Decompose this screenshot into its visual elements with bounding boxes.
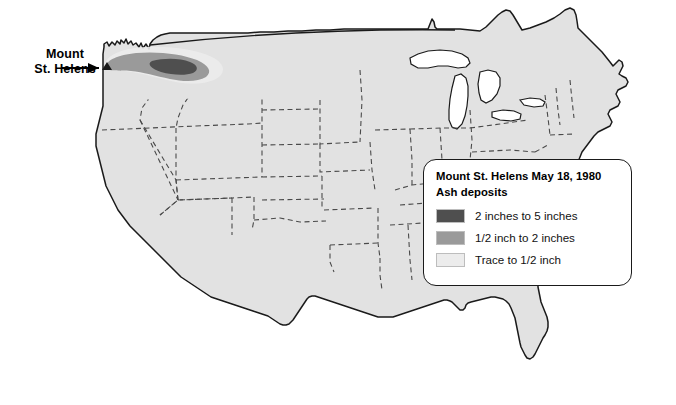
- legend-title-line-1: Mount St. Helens May 18, 1980: [436, 169, 631, 185]
- legend-label-2-to-5-inches: 2 inches to 5 inches: [475, 209, 577, 223]
- legend-title: Mount St. Helens May 18, 1980 Ash deposi…: [436, 169, 631, 200]
- mount-st-helens-label: Mount St. Helens: [22, 47, 108, 77]
- ash-deposit-map-figure: Mount St. Helens Mount St. Helens May 18…: [0, 0, 676, 405]
- legend-label-trace-to-half-inch: Trace to 1/2 inch: [475, 253, 561, 267]
- callout-line-1: Mount: [22, 47, 108, 62]
- callout-line-2: St. Helens: [22, 62, 108, 77]
- legend-item: Trace to 1/2 inch: [436, 251, 631, 269]
- map-legend: Mount St. Helens May 18, 1980 Ash deposi…: [423, 159, 632, 286]
- legend-title-line-2: Ash deposits: [436, 185, 631, 201]
- legend-item: 1/2 inch to 2 inches: [436, 229, 631, 247]
- legend-item: 2 inches to 5 inches: [436, 207, 631, 225]
- legend-swatch-trace-to-half-inch: [436, 253, 465, 267]
- legend-item-list: 2 inches to 5 inches 1/2 inch to 2 inche…: [436, 207, 631, 269]
- legend-swatch-2-to-5-inches: [436, 209, 465, 223]
- legend-swatch-half-to-2-inches: [436, 231, 465, 245]
- legend-label-half-to-2-inches: 1/2 inch to 2 inches: [475, 231, 575, 245]
